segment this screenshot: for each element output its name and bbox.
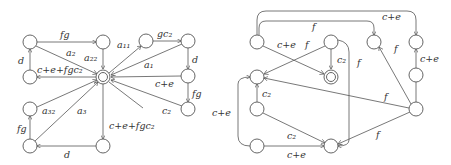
accepting-state-inner	[327, 73, 336, 82]
left-automaton: fg a₂ a₂₂ a₁₁ gc₂ a₁ d c+e+fgc₂ d c+e fg…	[16, 28, 202, 160]
label-c2-accept: c₂	[337, 54, 346, 65]
label-fg-top: fg	[59, 29, 70, 40]
label-c2-diag: c₂	[287, 130, 296, 141]
state-node	[23, 102, 37, 116]
edge-ce-left	[238, 77, 250, 146]
label-ce-cross: c+e	[277, 39, 296, 50]
state-node	[367, 35, 381, 49]
label-d-right: d	[192, 54, 198, 65]
edge-a32	[37, 80, 97, 107]
label-ce-top: c+e	[382, 11, 401, 22]
state-node	[409, 102, 423, 116]
label-fg-bottom-left: fg	[16, 123, 27, 134]
automata-diagrams: fg a₂ a₂₂ a₁₁ gc₂ a₁ d c+e+fgc₂ d c+e fg…	[0, 0, 451, 165]
label-ce-bottom: c+e	[287, 149, 306, 160]
state-node	[324, 35, 338, 49]
state-node	[23, 70, 37, 84]
state-node	[96, 139, 110, 153]
label-c2: c₂	[162, 105, 171, 116]
state-node	[139, 34, 153, 48]
state-node	[409, 68, 423, 82]
state-node	[409, 35, 423, 49]
label-a32: a₃₂	[42, 105, 55, 116]
right-automaton: c+e f c+e f c₂ f f c+e c₂ c+e f c₂ c+e f	[212, 11, 439, 160]
label-f-long: f	[383, 91, 389, 102]
label-f-cross: f	[304, 39, 310, 50]
label-ce-left: c+e	[212, 107, 231, 118]
label-cefgc2-left: c+e+fgc₂	[37, 64, 83, 75]
label-gc2: gc₂	[157, 28, 172, 39]
state-node	[324, 139, 338, 153]
label-f-lower: f	[375, 129, 381, 140]
label-a22: a₂₂	[84, 52, 97, 63]
label-ce-upper-right: c+e	[420, 53, 439, 64]
edge-f-top	[259, 21, 374, 35]
state-node	[250, 35, 264, 49]
label-a11: a₁₁	[117, 39, 130, 50]
state-node	[181, 102, 195, 116]
state-node	[250, 102, 264, 116]
edge-ce-right	[111, 76, 181, 77]
label-ce-right: c+e	[155, 78, 174, 89]
label-f-down: f	[356, 57, 362, 68]
label-d-left: d	[18, 55, 24, 66]
edge-ce-cross	[263, 46, 324, 74]
label-a3: a₃	[77, 105, 87, 116]
label-a2: a₂	[66, 47, 76, 58]
label-a1: a₁	[144, 59, 153, 70]
label-d-bottom: d	[64, 149, 70, 160]
state-node	[181, 69, 195, 83]
state-node	[96, 35, 110, 49]
state-node	[23, 35, 37, 49]
label-f-top: f	[311, 21, 317, 32]
state-node	[23, 139, 37, 153]
label-cefgc2-bottom: c+e+fgc₂	[109, 120, 155, 131]
state-node	[181, 34, 195, 48]
label-c2-left: c₂	[262, 88, 271, 99]
label-fg-right: fg	[191, 88, 202, 99]
edge-f-cross	[264, 46, 325, 74]
state-node	[250, 139, 264, 153]
state-node	[250, 70, 264, 84]
accepting-state-inner	[99, 73, 108, 82]
label-f-upper-right: f	[393, 43, 399, 54]
